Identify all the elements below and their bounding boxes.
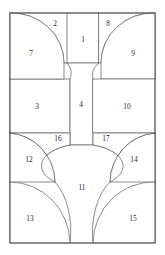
region-label-7: 7 bbox=[29, 49, 33, 58]
regions-layer bbox=[10, 13, 155, 243]
region-3[interactable] bbox=[10, 79, 70, 133]
region-label-17: 17 bbox=[102, 134, 110, 143]
region-label-9: 9 bbox=[131, 49, 135, 58]
region-diagram: 12347891011121314151617 bbox=[0, 0, 165, 255]
region-label-13: 13 bbox=[26, 214, 34, 223]
tessellation-canvas: 12347891011121314151617 bbox=[0, 0, 165, 255]
region-label-16: 16 bbox=[54, 134, 62, 143]
region-label-10: 10 bbox=[123, 102, 131, 111]
region-label-3: 3 bbox=[35, 102, 39, 111]
region-13[interactable] bbox=[10, 182, 70, 243]
region-label-8: 8 bbox=[106, 19, 110, 28]
region-label-15: 15 bbox=[129, 214, 137, 223]
region-label-12: 12 bbox=[25, 155, 33, 164]
region-label-14: 14 bbox=[130, 155, 138, 164]
region-label-2: 2 bbox=[53, 19, 57, 28]
region-label-11: 11 bbox=[78, 183, 85, 192]
region-label-4: 4 bbox=[79, 100, 83, 109]
region-label-1: 1 bbox=[81, 35, 85, 44]
